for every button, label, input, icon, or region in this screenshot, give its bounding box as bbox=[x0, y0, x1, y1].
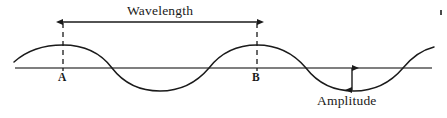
wave-diagram-canvas bbox=[0, 0, 447, 118]
amplitude-label: Amplitude bbox=[317, 94, 377, 108]
point-a-label: A bbox=[58, 72, 66, 84]
point-b-label: B bbox=[252, 72, 260, 84]
scan-artifact-speck bbox=[440, 10, 442, 15]
wave-diagram-figure: Wavelength Amplitude A B bbox=[0, 0, 447, 118]
wavelength-label: Wavelength bbox=[127, 4, 193, 18]
